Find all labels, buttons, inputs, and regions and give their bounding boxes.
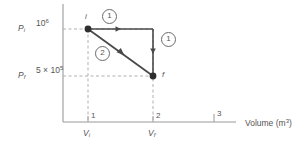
y-value-p-initial: 106 bbox=[36, 18, 49, 27]
y-label-p-initial: Pi bbox=[18, 24, 25, 33]
y-label-p-final-subscript: f bbox=[24, 74, 26, 80]
path-2-arrow-diagonal bbox=[117, 48, 125, 55]
x-label-v-initial: Vi bbox=[83, 129, 90, 138]
y-value-p-final: 5 × 105 bbox=[36, 65, 63, 74]
x-axis-title-text: Volume (m bbox=[245, 118, 286, 128]
x-label-v-initial-subscript: i bbox=[89, 132, 90, 138]
x-axis-title-close: ) bbox=[289, 118, 292, 128]
x-label-v-final: Vf bbox=[148, 129, 155, 138]
x-label-v-final-subscript: f bbox=[154, 132, 156, 138]
state-point-label-i: i bbox=[85, 13, 87, 21]
x-tick-label-2: 2 bbox=[156, 112, 160, 120]
x-tick-label-3: 3 bbox=[217, 110, 221, 118]
y-label-p-initial-subscript: i bbox=[24, 27, 25, 33]
path-marker-1-top: 1 bbox=[102, 9, 117, 24]
y-label-p-final: Pf bbox=[18, 71, 25, 80]
x-axis-ticks bbox=[88, 114, 214, 122]
x-tick-label-1: 1 bbox=[91, 112, 95, 120]
pv-diagram-figure: Pi 106 Pf 5 × 105 1 2 3 Vi Vf Volume (m3… bbox=[0, 0, 307, 150]
axes-group bbox=[63, 4, 236, 122]
x-axis-title: Volume (m3) bbox=[245, 118, 292, 127]
y-value-p-initial-exponent: 6 bbox=[45, 18, 48, 24]
y-value-p-final-mantissa: 5 × 10 bbox=[36, 65, 60, 75]
state-point-f bbox=[150, 73, 157, 80]
y-value-p-final-exponent: 5 bbox=[60, 65, 63, 71]
path-1-arrow-down bbox=[150, 49, 156, 55]
path-marker-1-right: 1 bbox=[161, 32, 176, 47]
path-1-arrow-right bbox=[116, 26, 122, 32]
state-point-label-f: f bbox=[162, 71, 164, 79]
path-marker-2: 2 bbox=[95, 46, 110, 61]
state-point-i bbox=[85, 26, 92, 33]
